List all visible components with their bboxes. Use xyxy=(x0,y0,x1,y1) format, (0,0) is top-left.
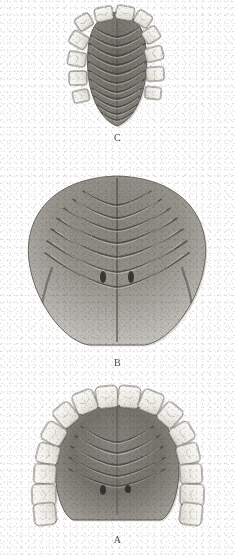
figure-c: C xyxy=(0,0,235,160)
figure-a-label: A xyxy=(0,534,235,545)
figure-b: B xyxy=(0,160,235,375)
figure-b-label: B xyxy=(0,357,235,368)
figure-a: A xyxy=(0,375,235,555)
figure-c-label: C xyxy=(0,132,235,143)
illustration-plate: C B A xyxy=(0,0,235,555)
